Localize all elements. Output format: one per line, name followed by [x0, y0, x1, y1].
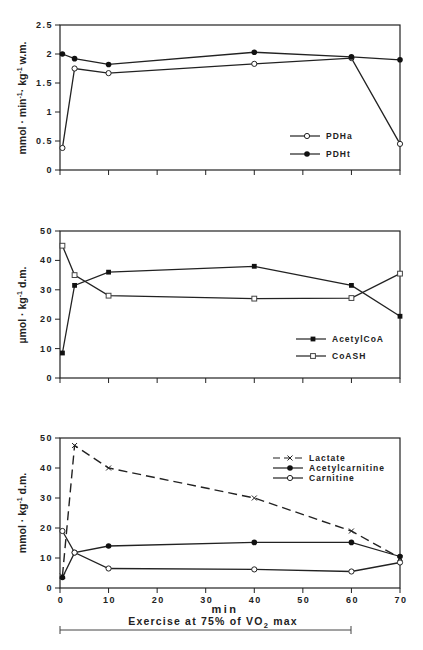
legend: PDHaPDHt — [290, 131, 353, 159]
y-tick-label: 1 — [46, 107, 53, 117]
filled-circle-marker — [304, 151, 310, 157]
filled-square-marker — [60, 351, 65, 356]
y-tick-label: 20 — [40, 523, 53, 533]
exercise-label: Exercise at 75% of VO2 max — [128, 615, 298, 630]
y-tick-label: 20 — [40, 314, 53, 324]
y-tick-label: 1.5 — [36, 78, 53, 88]
y-tick-label: 2 — [46, 49, 53, 59]
y-tick-label: 10 — [40, 344, 53, 354]
open-square-marker — [349, 296, 354, 301]
legend: AcetylCoACoASH — [296, 334, 384, 361]
filled-circle-marker — [349, 54, 355, 60]
filled-circle-marker — [106, 62, 112, 68]
open-circle-marker — [349, 569, 354, 574]
y-axis-ticks: 01020304050 — [40, 433, 60, 593]
legend-label-pdht: PDHt — [326, 149, 351, 159]
filled-circle-marker — [397, 57, 403, 63]
x-tick-label: 70 — [394, 595, 407, 605]
filled-square-marker — [311, 337, 316, 342]
y-tick-label: 30 — [40, 285, 53, 295]
y-tick-label: 0 — [46, 165, 53, 175]
y-tick-label: 40 — [40, 255, 53, 265]
open-circle-marker — [72, 550, 77, 555]
open-circle-marker — [60, 145, 65, 150]
filled-circle-marker — [251, 49, 257, 55]
filled-square-marker — [106, 270, 111, 275]
y-axis-label: mmol · kg-1 d.m. — [16, 473, 28, 553]
open-circle-marker — [304, 133, 309, 138]
open-circle-marker — [397, 560, 402, 565]
y-tick-label: 50 — [40, 226, 53, 236]
open-square-marker — [311, 354, 316, 359]
open-circle-marker — [60, 528, 65, 533]
y-tick-label: 50 — [40, 433, 53, 443]
y-tick-label: 0.5 — [36, 136, 53, 146]
legend-label-acetylcoa: AcetylCoA — [332, 334, 384, 344]
x-tick-label: 50 — [297, 595, 310, 605]
y-axis-label: mmol · min-1· kg-1 w.m. — [16, 41, 28, 154]
open-circle-marker — [106, 566, 111, 571]
open-square-marker — [252, 296, 257, 301]
y-axis-ticks: 01020304050 — [40, 226, 60, 383]
x-tick-label: 20 — [152, 595, 165, 605]
filled-square-marker — [252, 264, 257, 269]
series-line-carnitine — [62, 531, 400, 572]
open-circle-marker — [72, 66, 77, 71]
filled-square-marker — [72, 283, 77, 288]
filled-circle-marker — [72, 56, 78, 62]
open-square-marker — [60, 243, 65, 248]
open-square-marker — [106, 293, 111, 298]
filled-square-marker — [349, 283, 354, 288]
filled-circle-marker — [251, 540, 257, 546]
open-square-marker — [398, 271, 403, 276]
filled-circle-marker — [60, 575, 66, 581]
open-circle-marker — [252, 61, 257, 66]
plot-frame — [60, 438, 400, 588]
open-circle-marker — [252, 567, 257, 572]
open-circle-marker — [287, 475, 292, 480]
filled-circle-marker — [397, 554, 403, 560]
open-circle-marker — [106, 71, 111, 76]
y-tick-label: 2.5 — [36, 20, 53, 30]
y-axis-ticks: 00.511.522.5 — [36, 20, 60, 175]
filled-circle-marker — [60, 51, 66, 57]
legend-label-coash: CoASH — [332, 351, 366, 361]
legend-label-lactate: Lactate — [309, 453, 346, 463]
y-tick-label: 0 — [46, 583, 53, 593]
panel-pdh: 00.511.522.5 mmol · min-1· kg-1 w.m. PDH… — [16, 20, 403, 175]
x-tick-label: 60 — [346, 595, 359, 605]
legend-label-pdha: PDHa — [326, 131, 353, 141]
y-axis-label: µmol · kg-1 d.m. — [16, 266, 28, 343]
filled-circle-marker — [349, 540, 355, 546]
filled-square-marker — [398, 314, 403, 319]
panel-carnitine: 01020304050 010203040506070 mmol · kg-1 … — [16, 433, 408, 615]
panel-coa: 01020304050 µmol · kg-1 d.m. AcetylCoACo… — [16, 226, 402, 383]
x-axis-ticks — [60, 170, 400, 175]
open-square-marker — [72, 273, 77, 278]
x-tick-label: 0 — [58, 595, 65, 605]
open-circle-marker — [397, 141, 402, 146]
chart-figure: 00.511.522.5 mmol · min-1· kg-1 w.m. PDH… — [0, 0, 423, 650]
x-tick-label: 40 — [249, 595, 262, 605]
legend-label-carnitine: Carnitine — [309, 473, 355, 483]
y-tick-label: 0 — [46, 373, 53, 383]
y-tick-label: 40 — [40, 463, 53, 473]
filled-circle-marker — [287, 465, 293, 471]
y-tick-label: 30 — [40, 493, 53, 503]
x-axis-label: min — [211, 603, 238, 615]
x-axis-ticks — [60, 378, 400, 383]
exercise-duration-bar: Exercise at 75% of VO2 max — [60, 615, 351, 634]
filled-circle-marker — [106, 543, 112, 549]
legend-label-acetylcarnitine: Acetylcarnitine — [309, 463, 385, 473]
y-tick-label: 10 — [40, 553, 53, 563]
x-tick-label: 10 — [103, 595, 116, 605]
legend: LactateAcetylcarnitineCarnitine — [273, 453, 385, 483]
